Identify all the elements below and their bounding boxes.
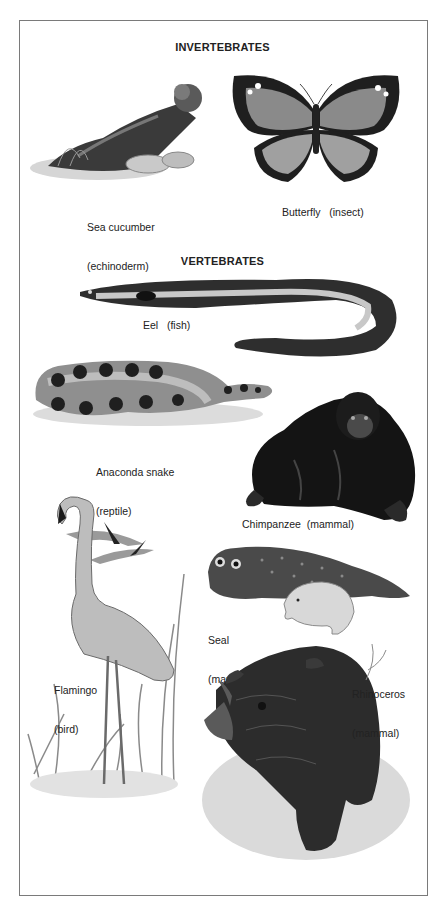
label-eel: Eel (fish): [143, 319, 190, 332]
label-butterfly: Butterfly (insect): [282, 206, 364, 219]
label-flamingo: Flamingo (bird): [54, 658, 97, 749]
section-heading-invertebrates: INVERTEBRATES: [150, 41, 295, 53]
butterfly-illustration: [228, 70, 404, 186]
chimpanzee-illustration: [234, 380, 422, 530]
section-heading-vertebrates: VERTEBRATES: [160, 255, 285, 267]
flamingo-illustration: [24, 484, 196, 804]
sea-cucumber-illustration: [28, 76, 208, 184]
label-chimpanzee: Chimpanzee (mammal): [242, 518, 354, 531]
label-rhinoceros: Rhinoceros (mammal): [352, 662, 405, 753]
